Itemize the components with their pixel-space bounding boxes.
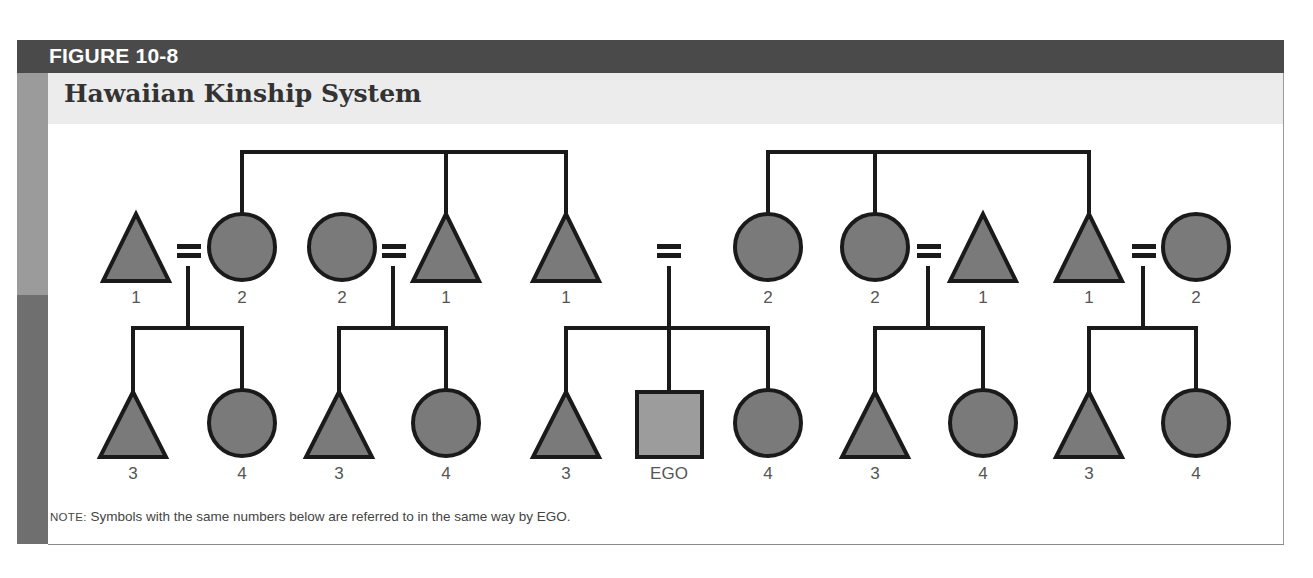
kin-label: 3 [870,464,879,483]
male-triangle-icon [533,392,599,457]
male-triangle-icon [1056,214,1122,281]
equals-icon [382,253,406,258]
ego-square-icon [637,392,702,457]
female-circle-icon [209,390,275,456]
female-circle-icon [950,390,1016,456]
note-text: Symbols with the same numbers below are … [87,509,571,524]
equals-icon [657,253,681,258]
kin-label: 3 [1084,464,1093,483]
kin-label: 3 [334,464,343,483]
kinship-diagram: 1 2 2 1 1 2 2 1 1 2 3 4 3 4 3 EGO 4 3 4 … [0,0,1313,578]
male-triangle-icon [842,392,908,457]
equals-icon [917,244,941,249]
female-circle-icon [413,390,479,456]
male-triangle-icon [103,214,169,281]
female-circle-icon [1163,214,1229,280]
kin-label: 4 [763,464,772,483]
equals-icon [177,244,201,249]
male-triangle-icon [100,392,166,457]
note-prefix: NOTE: [50,511,87,523]
kin-label: 2 [337,288,346,307]
kin-label: 4 [237,464,246,483]
ego-generation [100,390,1229,457]
male-triangle-icon [413,214,479,281]
kin-label: 1 [978,288,987,307]
kin-label: 1 [1084,288,1093,307]
female-circle-icon [209,214,275,280]
kin-label: 2 [870,288,879,307]
female-circle-icon [735,214,801,280]
female-circle-icon [842,214,908,280]
kin-label: 2 [763,288,772,307]
kin-label: 4 [978,464,987,483]
kin-label: 3 [561,464,570,483]
right-sibling-bracket [768,152,1089,214]
male-triangle-icon [306,392,372,457]
female-circle-icon [735,390,801,456]
kin-label: 2 [1191,288,1200,307]
kin-label: 1 [131,288,140,307]
female-circle-icon [309,214,375,280]
female-circle-icon [1163,390,1229,456]
connector-lines [133,152,1196,392]
ego-label: EGO [650,464,688,483]
equals-icon [1132,253,1156,258]
kin-label: 1 [441,288,450,307]
equals-icon [917,253,941,258]
kin-label: 3 [128,464,137,483]
kin-label: 4 [1191,464,1200,483]
kin-label: 4 [441,464,450,483]
male-triangle-icon [533,214,599,281]
equals-icon [382,244,406,249]
kin-label: 1 [561,288,570,307]
male-triangle-icon [1056,392,1122,457]
left-sibling-bracket [242,152,566,214]
kin-label: 2 [237,288,246,307]
male-triangle-icon [950,214,1016,281]
figure-note: NOTE: Symbols with the same numbers belo… [50,509,571,524]
equals-icon [1132,244,1156,249]
equals-icon [177,253,201,258]
equals-icon [657,244,681,249]
